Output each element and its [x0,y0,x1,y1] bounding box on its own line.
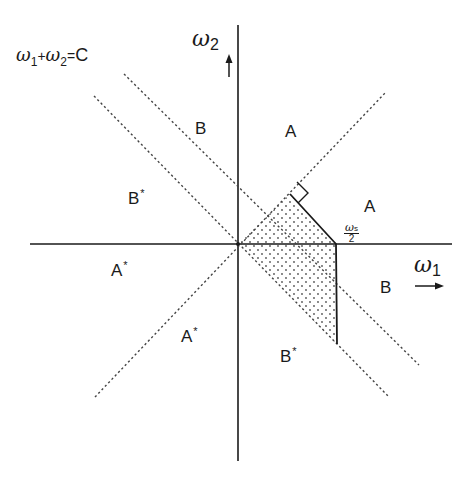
region-label-a-right: A [364,198,376,215]
conjugate-star: * [193,325,197,337]
region-label-bstar-lower: B* [280,348,297,365]
diagram-canvas [0,0,472,483]
x-axis-label: ω1 [414,254,441,276]
origin-point [236,242,240,246]
equals-sign: = [67,48,75,64]
constant-sum-line-upper [124,74,419,365]
right-angle-marker [297,182,308,203]
fraction-denominator: 2 [349,234,355,244]
constant-c: C [75,45,88,65]
equation-label: ω1+ω2=C [16,46,88,64]
conjugate-star: * [292,345,296,357]
omega-symbol: ω [414,252,432,277]
region-letter: B [380,278,391,297]
region-label-astar-lower: A* [181,328,198,345]
conjugate-star: * [123,259,127,271]
plus-sign: + [37,48,45,64]
region-letter: B [195,119,206,138]
omega-symbol: ω [192,26,210,51]
x-arrow-head-icon [435,283,444,290]
omega-symbol: ω [46,44,61,65]
region-letter: B [128,189,139,208]
cutoff-label: ωs 2 [344,222,359,244]
subscript: 2 [60,55,67,69]
shaded-region [238,194,337,344]
region-letter: A [111,261,122,280]
region-label-bstar-left: B* [128,190,145,207]
region-letter: A [285,122,296,141]
omega-symbol: ω [16,44,31,65]
region-letter: A [181,327,192,346]
subscript: s [354,224,358,233]
y-axis-label: ω2 [192,28,219,50]
y-arrow-head-icon [226,54,233,63]
subscript: 2 [210,36,219,53]
region-label-a-upper: A [285,123,297,140]
subscript: 1 [31,55,38,69]
region-label-b-right: B [380,279,392,296]
conjugate-star: * [140,187,144,199]
subscript: 1 [432,262,441,279]
region-label-b-upper-left: B [195,120,207,137]
region-letter: A [364,197,375,216]
region-label-astar-left: A* [111,262,128,279]
region-letter: B [280,347,291,366]
